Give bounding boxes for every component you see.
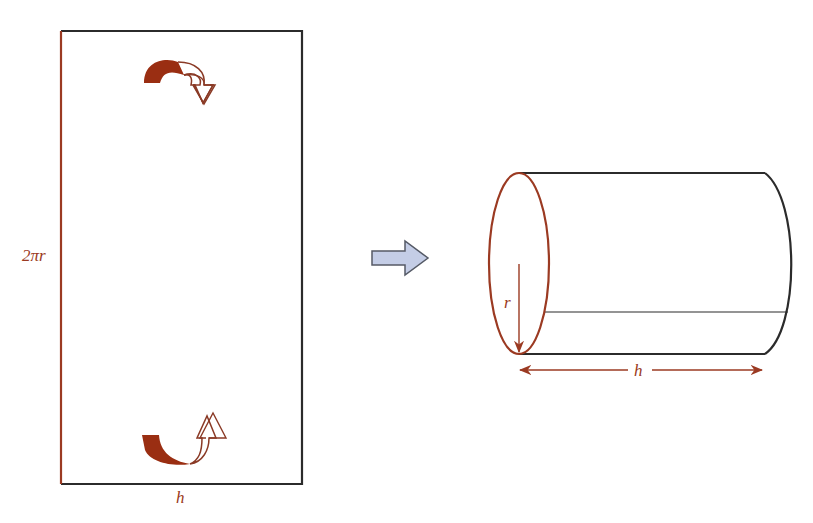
circumference-label: 2πr — [22, 246, 46, 265]
curl-down-arrow-icon — [144, 60, 215, 104]
rectangle-height-label: h — [176, 488, 185, 507]
right-arrow-icon — [372, 241, 428, 275]
cylinder — [489, 173, 791, 370]
rectangle-to-cylinder-diagram: 2πr h r h — [0, 0, 813, 523]
flat-rectangle — [61, 31, 302, 484]
cylinder-length-label: h — [634, 361, 643, 380]
radius-label: r — [504, 293, 511, 312]
curl-up-arrow-icon — [142, 413, 226, 465]
